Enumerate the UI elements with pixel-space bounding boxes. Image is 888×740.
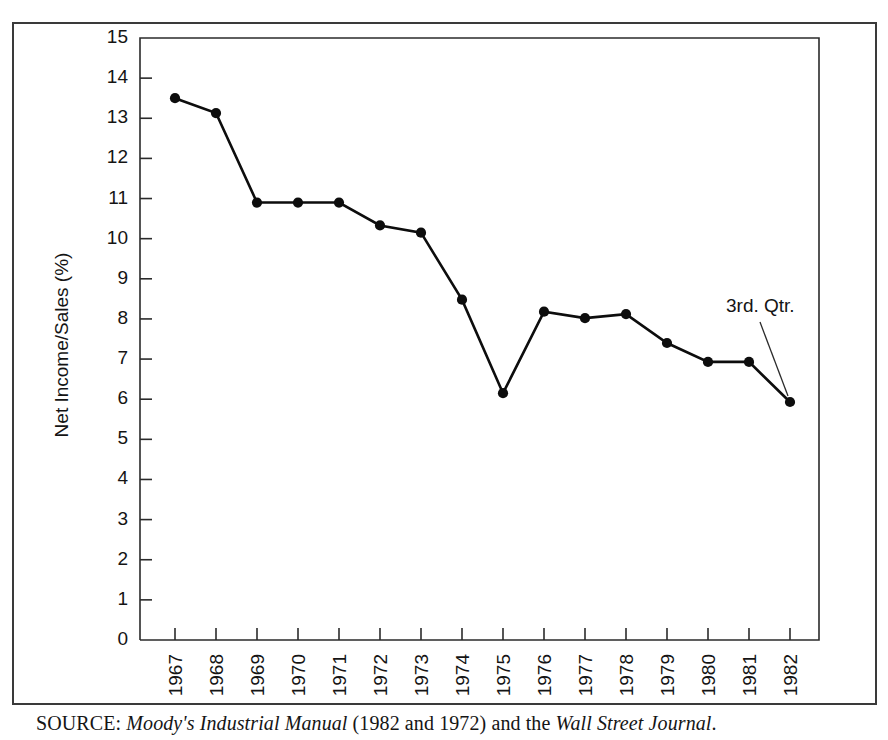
cropped-text-remnant [0, 0, 888, 9]
source-period: . [712, 712, 717, 734]
figure-container: 0123456789101112131415 19671968196919701… [0, 0, 888, 740]
chart-frame [12, 22, 877, 705]
source-note: SOURCE: Moody's Industrial Manual (1982 … [36, 712, 866, 735]
source-middle-text: (1982 and 1972) and the [353, 712, 551, 734]
source-work-primary: Moody's Industrial Manual [126, 712, 347, 734]
source-label: SOURCE: [36, 712, 121, 734]
source-divider [12, 703, 877, 705]
source-work-secondary: Wall Street Journal [556, 712, 712, 734]
